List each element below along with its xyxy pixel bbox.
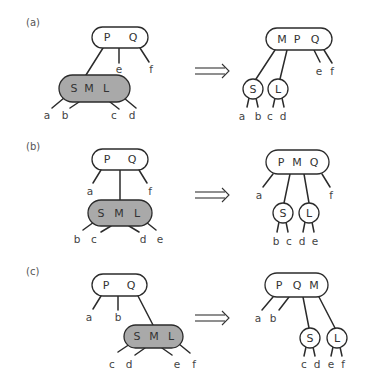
tree-edge [52,98,64,108]
tree-edge [93,170,101,183]
after-subtree-labels: afbcde [256,189,333,247]
key-p: P [294,33,301,46]
tree-edge [124,98,136,108]
key-s: S [98,207,105,220]
child-node-l: L [268,79,288,99]
subtree-label-e: e [174,358,180,370]
key-q: Q [128,153,137,166]
tree-edge [256,50,275,79]
key-l: L [275,83,282,96]
tree-edge [247,98,249,107]
key-l: L [306,207,313,220]
subtree-label-d: d [129,109,136,121]
subtree-label-b: b [270,312,277,324]
subtree-label-e: e [328,358,334,370]
subtree-label-a: a [44,109,50,121]
subtree-label-f: f [329,189,333,201]
tree-edge [286,222,288,232]
panel-label: (c) [26,266,39,277]
implies-arrow-icon [195,311,229,325]
tree-edge [313,347,315,356]
subtree-label-f: f [330,65,334,77]
parent-node-shape [92,149,148,170]
key-s: S [134,330,141,343]
tree-edge [280,50,287,79]
subtree-label-c: c [109,358,115,370]
tree-edge [93,296,101,309]
after-edges [247,50,332,107]
subtree-label-c: c [301,358,307,370]
panel-a: (a)PQSMLefabcdMPQSLefabcd [26,17,334,123]
child-node-l: L [299,203,319,223]
subtree-label-f: f [341,358,345,370]
key-m: M [292,156,302,169]
subtree-label-a: a [87,185,93,197]
key-m: M [114,207,124,220]
key-s: S [280,207,287,220]
key-p: P [103,279,110,292]
panel-label: (b) [26,141,40,152]
subtree-label-f: f [149,63,153,75]
subtree-label-d: d [126,358,133,370]
parent-node: PQ [92,27,148,48]
subtree-label-a: a [256,189,262,201]
tree-edge [86,48,103,75]
key-m: M [149,330,159,343]
tree-edge [263,174,273,187]
key-m: M [277,33,287,46]
before-tree: PQSMLefabcd [44,27,153,121]
merged-parent-node: MPQ [266,28,332,50]
tree-edge [262,297,273,310]
tree-edge [138,296,153,325]
tree-edge [312,222,314,232]
child-node-s: S [273,203,293,223]
b-tree-split-diagram: (a)PQSMLefabcdMPQSLefabcd(b)PQSMLafbcdeP… [0,0,365,390]
tree-edge [277,222,279,232]
tree-edge [322,174,330,187]
panel-c: (c)PQSMLabcdefPQMSLabcdef [26,266,347,371]
tree-edge [139,170,147,183]
panel-b: (b)PQSMLafbcdePMQSLafbcde [26,141,333,248]
child-node-s: S [243,79,263,99]
after-edges [263,174,330,232]
subtree-label-f: f [148,185,152,197]
tree-edge [256,98,258,107]
merged-parent-node: PQM [265,273,328,297]
key-p: P [276,279,283,292]
tree-edge [303,297,309,328]
key-p: P [104,153,111,166]
subtree-label-b: b [62,109,69,121]
subtree-label-c: c [286,235,292,247]
subtree-label-e: e [312,235,318,247]
subtree-label-f: f [192,358,196,370]
key-s: S [307,332,314,345]
tree-edge [101,226,111,232]
parent-node-shape [92,274,147,296]
key-q: Q [127,279,136,292]
key-l: L [134,207,141,220]
parent-node: PQ [92,274,147,296]
overflow-node: SML [88,200,152,226]
key-p: P [278,156,285,169]
tree-edge [331,347,333,356]
tree-edge [179,344,190,353]
tree-edge [314,50,320,62]
subtree-label-d: d [140,233,147,245]
tree-edge [273,98,275,107]
subtree-label-b: b [115,311,122,323]
parent-node: PQ [92,149,148,170]
subtree-label-b: b [273,235,280,247]
subtree-label-a: a [86,311,92,323]
key-q: Q [310,156,319,169]
tree-edge [304,174,309,203]
after-edges [262,297,342,356]
tree-edge [135,348,145,355]
subtree-label-d: d [314,358,321,370]
tree-edge [284,174,290,203]
tree-edge [140,48,149,62]
tree-edge [70,102,79,108]
tree-edge [319,297,335,328]
tree-edge [129,226,139,232]
tree-edge [304,347,306,356]
tree-edge [303,222,305,232]
